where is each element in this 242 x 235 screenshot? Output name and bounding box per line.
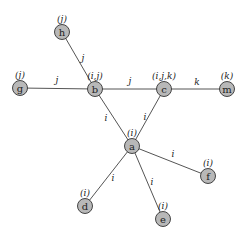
node-set-label: (i) [203, 158, 213, 168]
node-label: b [92, 84, 98, 95]
edge-label-g-b: j [54, 75, 59, 85]
edge-label-c-m: k [194, 77, 199, 87]
node-h: h(j) [55, 14, 70, 40]
node-label: h [59, 27, 66, 38]
node-label: g [17, 83, 24, 94]
edges-layer [20, 32, 227, 219]
node-c: c(i,j,k) [152, 71, 176, 97]
node-f: f(i) [201, 158, 216, 184]
node-set-label: (i) [127, 128, 137, 138]
node-a: a(i) [125, 128, 140, 154]
node-b: b(i,j) [87, 71, 103, 97]
edge-label-a-e: i [151, 177, 154, 187]
node-set-label: (i,j) [87, 71, 103, 81]
edge-g-b [20, 88, 95, 89]
node-set-label: (i) [158, 201, 168, 211]
edge-a-d [85, 146, 132, 206]
edge-label-c-a: i [144, 112, 147, 122]
node-set-label: (j) [15, 70, 25, 80]
node-d: d(i) [78, 188, 93, 214]
edge-labels-layer: jjjkiiiii [54, 53, 200, 187]
graph-diagram: jjjkiiiii h(j)g(j)b(i,j)c(i,j,k)m(k)a(i)… [0, 0, 242, 235]
node-e: e(i) [156, 201, 171, 227]
node-set-label: (k) [221, 71, 234, 81]
edge-a-f [132, 146, 208, 176]
edge-label-a-d: i [112, 173, 115, 183]
edge-label-h-b: j [80, 53, 85, 63]
edge-label-b-a: i [105, 113, 108, 123]
node-label: d [82, 201, 89, 212]
node-g: g(j) [13, 70, 28, 96]
node-set-label: (i) [80, 188, 90, 198]
node-label: c [161, 84, 167, 95]
node-label: e [160, 214, 166, 225]
node-set-label: (j) [57, 14, 67, 24]
node-label: m [222, 84, 232, 95]
node-m: m(k) [220, 71, 235, 97]
edge-label-b-c: j [127, 76, 132, 86]
nodes-layer: h(j)g(j)b(i,j)c(i,j,k)m(k)a(i)f(i)d(i)e(… [13, 14, 235, 227]
node-label: a [129, 141, 135, 152]
edge-label-a-f: i [172, 149, 175, 159]
node-set-label: (i,j,k) [152, 71, 176, 81]
